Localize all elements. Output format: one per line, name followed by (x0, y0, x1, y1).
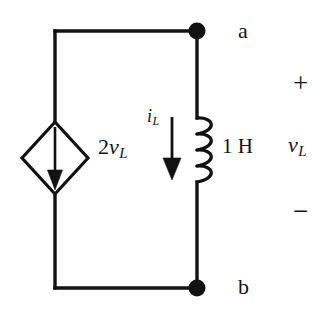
inductor-loop-2 (197, 134, 211, 150)
circuit-diagram-figure: a b + − vL 1 H 2vL iL (0, 0, 333, 324)
voltage-symbol: v (288, 132, 298, 157)
inductor-symbol (197, 118, 211, 182)
inductance-value-label: 1 H (222, 136, 253, 157)
inductor-loop-4 (197, 166, 211, 182)
inductor-current-arrow (163, 117, 181, 180)
terminal-b-label: b (238, 276, 249, 298)
node-dot-b (189, 280, 206, 297)
node-dot-a (189, 23, 206, 40)
circuit-schematic-canvas (0, 0, 333, 324)
voltage-subscript: L (298, 143, 307, 159)
current-arrow-head-icon (163, 158, 181, 180)
inductor-loop-1 (197, 118, 211, 134)
voltage-polarity-minus-label: − (293, 198, 308, 225)
dependent-source-value-label: 2vL (98, 136, 128, 161)
inductor-loop-3 (197, 150, 211, 166)
dependent-current-source-symbol (22, 122, 88, 194)
source-gain: 2 (98, 134, 109, 159)
source-voltage-subscript: L (119, 145, 128, 161)
terminal-voltage-label: vL (288, 134, 307, 159)
inductor-current-label: iL (147, 107, 159, 128)
voltage-polarity-plus-label: + (293, 70, 308, 97)
current-subscript: L (152, 114, 159, 128)
source-voltage-symbol: v (109, 134, 119, 159)
terminal-a-label: a (238, 20, 248, 42)
